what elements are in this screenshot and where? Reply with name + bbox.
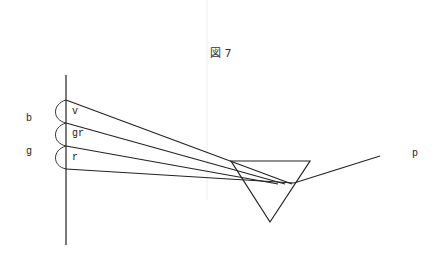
arc-gr [56,123,67,146]
label-v: v [72,106,78,117]
ray-r [66,169,294,183]
optics-diagram [0,0,437,260]
arc-b [56,100,67,123]
label-b: b [26,113,32,124]
incident-ray-p [294,156,380,183]
label-r: r [72,152,78,163]
arc-g [56,146,67,169]
label-gr: gr [72,128,84,139]
ray-lower-mid [66,146,278,184]
ray-upper-mid [66,123,285,184]
label-g: g [26,146,32,157]
prism [231,161,310,222]
label-p: p [412,148,418,159]
